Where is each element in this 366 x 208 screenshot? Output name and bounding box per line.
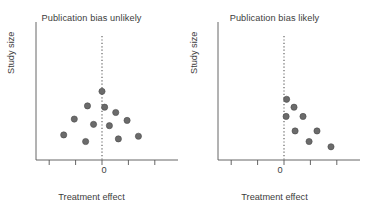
data-point <box>71 116 77 122</box>
data-point <box>106 123 112 129</box>
panel-publication-bias-unlikely: Publication bias unlikely Study size 0 T… <box>0 0 183 208</box>
data-point <box>292 128 298 134</box>
data-point <box>124 117 130 123</box>
panel-publication-bias-likely: Publication bias likely Study size 0 Tre… <box>183 0 366 208</box>
data-point <box>99 88 105 94</box>
plot-area-left <box>0 0 183 208</box>
plot-area-right <box>183 0 366 208</box>
data-point <box>328 144 334 150</box>
x-axis-label-left: Treatment effect <box>0 192 183 202</box>
x-axis-label-right: Treatment effect <box>183 192 366 202</box>
data-point <box>61 132 67 138</box>
data-point <box>113 109 119 115</box>
data-point <box>314 128 320 134</box>
x-axis-zero-label-left: 0 <box>92 165 116 175</box>
data-point <box>306 138 312 144</box>
data-point <box>284 96 290 102</box>
data-point <box>300 113 306 119</box>
data-point <box>83 138 89 144</box>
data-point <box>115 136 121 142</box>
data-point <box>283 113 289 119</box>
data-point <box>90 121 96 127</box>
data-point <box>102 104 108 110</box>
x-axis-zero-label-right: 0 <box>268 165 292 175</box>
data-point <box>135 133 141 139</box>
data-point <box>291 104 297 110</box>
data-point <box>84 103 90 109</box>
funnel-plot-figure: Publication bias unlikely Study size 0 T… <box>0 0 366 208</box>
